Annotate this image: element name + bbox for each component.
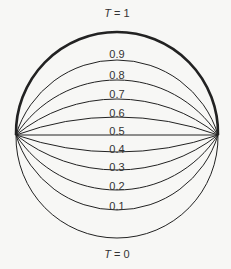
isotherm-label-1: T = 1 (104, 7, 129, 19)
isotherm-label-0.7: 0.7 (109, 88, 124, 100)
isotherm-label-0.9: 0.9 (109, 48, 124, 60)
isotherm-diagram: T = 10.90.80.70.60.50.40.30.20.1T = 0 (0, 0, 231, 269)
isotherm-label-0.1: 0.1 (109, 200, 124, 212)
isotherm-label-0.3: 0.3 (109, 161, 124, 173)
isotherm-label-0.6: 0.6 (109, 107, 124, 119)
isotherm-label-0.8: 0.8 (109, 69, 124, 81)
isotherm-label-0: T = 0 (104, 248, 129, 260)
isotherm-label-0.5: 0.5 (109, 125, 124, 137)
isotherm-label-0.4: 0.4 (109, 143, 124, 155)
isotherm-label-0.2: 0.2 (109, 180, 124, 192)
